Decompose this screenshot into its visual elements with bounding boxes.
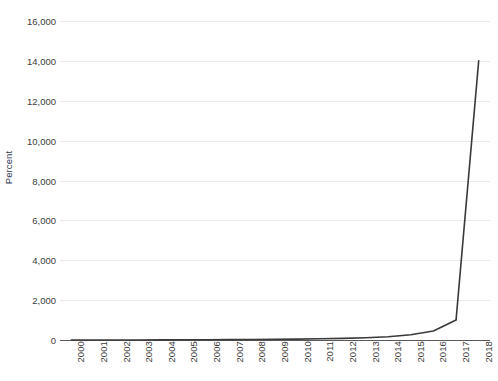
y-tick-label: 12,000 xyxy=(14,95,56,106)
y-tick-label: 2,000 xyxy=(14,295,56,306)
x-tick-label: 2006 xyxy=(211,341,222,375)
y-tick-label: 4,000 xyxy=(14,255,56,266)
series-polyline xyxy=(71,61,478,340)
x-tick-label: 2002 xyxy=(121,341,132,375)
y-tick-label: 0 xyxy=(14,335,56,346)
y-tick-label: 10,000 xyxy=(14,135,56,146)
x-tick-label: 2016 xyxy=(437,341,448,375)
series-line-percent xyxy=(60,21,490,340)
x-tick-label: 2018 xyxy=(483,341,494,375)
line-chart: Percent 02,0004,0006,0008,00010,00012,00… xyxy=(0,0,498,381)
y-tick-label: 14,000 xyxy=(14,55,56,66)
x-tick-label: 2013 xyxy=(370,341,381,375)
x-tick-label: 2012 xyxy=(347,341,358,375)
y-tick-label: 6,000 xyxy=(14,215,56,226)
x-tick-label: 2007 xyxy=(234,341,245,375)
x-tick-label: 2008 xyxy=(256,341,267,375)
plot-area xyxy=(60,21,490,340)
x-tick-label: 2014 xyxy=(392,341,403,375)
x-tick-label: 2005 xyxy=(188,341,199,375)
x-tick-label: 2000 xyxy=(75,341,86,375)
x-tick-label: 2017 xyxy=(460,341,471,375)
x-tick-label: 2009 xyxy=(279,341,290,375)
y-axis-title: Percent xyxy=(3,144,14,192)
x-tick-label: 2015 xyxy=(415,341,426,375)
y-tick-label: 8,000 xyxy=(14,175,56,186)
x-tick-label: 2010 xyxy=(302,341,313,375)
x-tick-label: 2003 xyxy=(143,341,154,375)
x-tick-label: 2001 xyxy=(98,341,109,375)
x-axis-tick-labels: 2000200120022003200420052006200720082009… xyxy=(60,341,490,381)
x-tick-label: 2004 xyxy=(166,341,177,375)
y-axis-tick-labels: 02,0004,0006,0008,00010,00012,00014,0001… xyxy=(14,0,56,381)
x-tick-label: 2011 xyxy=(324,341,335,375)
y-tick-label: 16,000 xyxy=(14,16,56,27)
